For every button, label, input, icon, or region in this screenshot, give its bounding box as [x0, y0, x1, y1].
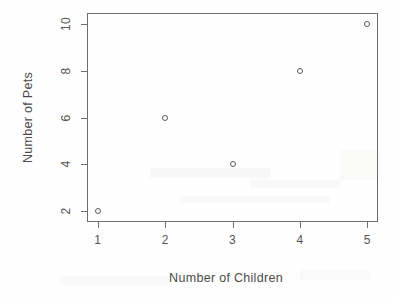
data-point — [162, 115, 168, 121]
y-tick-mark — [81, 211, 87, 212]
plot-area-border — [87, 13, 378, 222]
data-point — [297, 68, 303, 74]
y-tick-mark — [81, 71, 87, 72]
x-axis-title: Number of Children — [0, 271, 397, 285]
x-tick-mark — [233, 222, 234, 228]
y-tick-label: 4 — [58, 153, 74, 175]
y-tick-label: 2 — [58, 200, 74, 222]
y-tick-label: 6 — [58, 107, 74, 129]
y-tick-mark — [81, 164, 87, 165]
x-tick-mark — [165, 222, 166, 228]
y-tick-label: 10 — [58, 13, 74, 35]
x-tick-label: 3 — [229, 233, 236, 247]
y-tick-mark — [81, 24, 87, 25]
data-point — [364, 21, 370, 27]
y-tick-label: 8 — [58, 60, 74, 82]
x-tick-label: 4 — [296, 233, 303, 247]
x-tick-mark — [300, 222, 301, 228]
x-tick-label: 1 — [94, 233, 101, 247]
x-tick-mark — [367, 222, 368, 228]
x-tick-mark — [98, 222, 99, 228]
y-tick-mark — [81, 118, 87, 119]
x-tick-label: 2 — [162, 233, 169, 247]
y-axis-title: Number of Pets — [16, 13, 40, 222]
scatter-plot-figure: 12345 246810 Number of Children Number o… — [0, 0, 397, 298]
x-tick-label: 5 — [364, 233, 371, 247]
